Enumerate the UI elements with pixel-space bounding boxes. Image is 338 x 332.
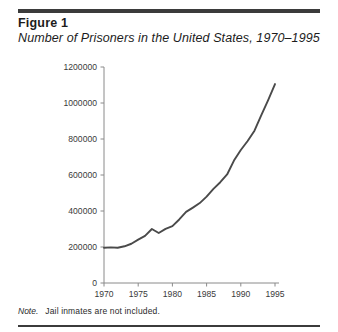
x-axis-ticks — [104, 283, 275, 287]
y-tick-label: 0 — [92, 278, 97, 288]
y-axis-ticks — [101, 67, 105, 283]
top-rule — [18, 9, 320, 13]
y-tick-label: 1000000 — [64, 98, 98, 108]
x-tick-label: 1980 — [163, 289, 182, 299]
x-axis-tick-labels: 197019751980198519901995 — [94, 289, 284, 299]
x-axis-group: 197019751980198519901995 — [94, 283, 284, 299]
y-tick-label: 400000 — [68, 206, 97, 216]
x-tick-label: 1985 — [197, 289, 216, 299]
note-text: Jail inmates are not included. — [45, 306, 160, 316]
y-tick-label: 600000 — [68, 170, 97, 180]
figure-note: Note.Jail inmates are not included. — [18, 306, 160, 316]
data-series-line — [104, 84, 275, 248]
figure-label: Figure 1 — [18, 16, 68, 30]
y-tick-label: 200000 — [68, 242, 97, 252]
chart-plot-area: 020000040000060000080000010000001200000 … — [0, 52, 338, 302]
y-axis-group: 020000040000060000080000010000001200000 — [64, 62, 104, 288]
note-label: Note. — [18, 306, 38, 316]
x-tick-label: 1970 — [94, 289, 113, 299]
figure-container: Figure 1 Number of Prisoners in the Unit… — [0, 0, 338, 332]
y-axis-tick-labels: 020000040000060000080000010000001200000 — [64, 62, 98, 288]
x-tick-label: 1995 — [265, 289, 284, 299]
bottom-rule — [18, 325, 320, 327]
x-tick-label: 1975 — [129, 289, 148, 299]
line-chart-svg: 020000040000060000080000010000001200000 … — [0, 52, 338, 302]
x-tick-label: 1990 — [231, 289, 250, 299]
figure-title: Number of Prisoners in the United States… — [18, 31, 320, 45]
y-tick-label: 1200000 — [64, 62, 98, 72]
y-tick-label: 800000 — [68, 134, 97, 144]
